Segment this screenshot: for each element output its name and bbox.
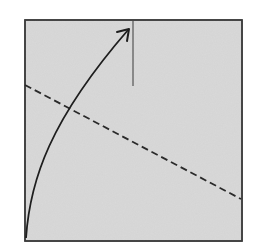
origami-diagram [0,0,254,247]
